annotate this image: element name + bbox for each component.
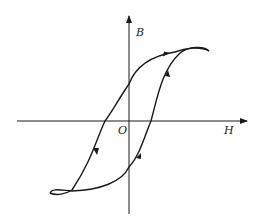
origin-label: O	[118, 124, 127, 137]
x-axis-label: H	[223, 124, 234, 137]
arrow-top-left-icon	[163, 52, 170, 57]
diagram-canvas: B O H	[0, 0, 263, 219]
y-axis-label: B	[135, 26, 144, 39]
arrow-down-left-icon	[93, 148, 99, 155]
hysteresis-diagram: B O H	[0, 0, 263, 219]
